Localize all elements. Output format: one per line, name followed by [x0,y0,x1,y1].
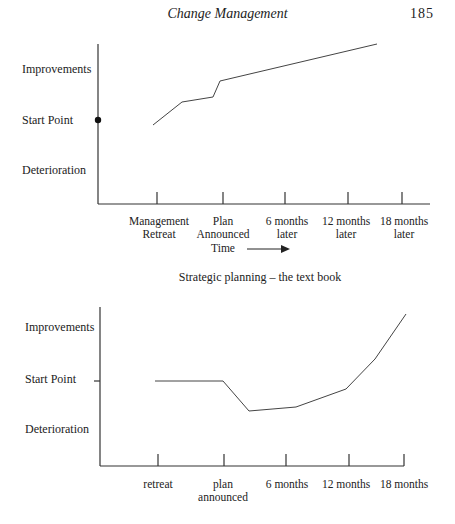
chart1-x-management-retreat: Management Retreat [124,215,194,241]
chart2-line [155,314,406,411]
label-line: announced [188,491,258,504]
chart2-y-deterioration: Deterioration [25,422,89,437]
label-line: Retreat [124,228,194,241]
charts-graphics [0,0,455,524]
chart2-x-plan-announced: plan announced [188,478,258,504]
chart2-x-18-months: 18 months [369,478,439,491]
chart2-y-improvements: Improvements [25,320,94,335]
chart1-axes [98,44,430,204]
time-axis-label: Time [188,242,258,255]
chart2-axes [94,307,404,466]
label-line: Announced [188,228,258,241]
chart1-line [153,44,377,125]
chart1-caption: Strategic planning – the text book [110,270,410,285]
chart2-y-start-point: Start Point [25,372,76,387]
chart2-x-retreat: retreat [123,478,193,491]
label-line: plan [188,478,258,491]
label-line: later [369,228,439,241]
chart1-y-start-point: Start Point [22,113,73,128]
label-line: Plan [188,215,258,228]
chart1-y-deterioration: Deterioration [22,163,86,178]
label-line: Management [124,215,194,228]
chart1-x-plan-announced: Plan Announced Time [188,215,258,255]
label-line: 18 months [369,215,439,228]
chart1-y-improvements: Improvements [22,62,91,77]
start-point-marker [95,117,101,123]
chart1-x-18-months: 18 months later [369,215,439,241]
time-arrow-icon [281,245,290,253]
